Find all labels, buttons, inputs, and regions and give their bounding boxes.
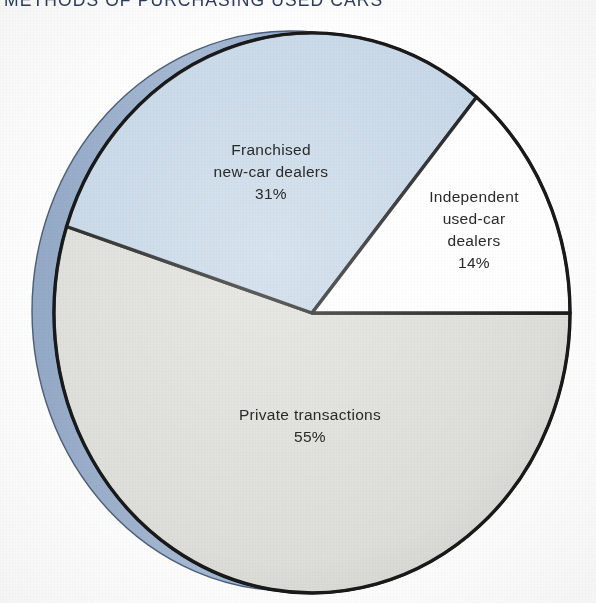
pie-chart [0,0,596,603]
chart-page: METHODS OF PURCHASING USED CARS [0,0,596,603]
pie-face-shading [54,33,570,593]
pie-chart-svg [0,0,596,603]
